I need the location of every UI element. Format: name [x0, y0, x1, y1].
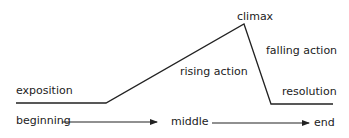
label-end: end [314, 117, 335, 129]
label-rising-action: rising action [180, 66, 248, 78]
label-beginning: beginning [16, 115, 71, 127]
label-falling-action: falling action [266, 45, 337, 57]
label-exposition: exposition [16, 85, 73, 97]
label-climax: climax [237, 11, 273, 23]
label-middle: middle [171, 116, 209, 128]
label-resolution: resolution [282, 86, 337, 98]
